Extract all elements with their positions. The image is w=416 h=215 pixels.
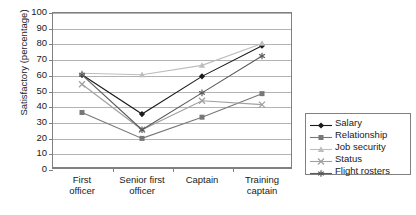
y-tick-label: 100 bbox=[21, 7, 47, 17]
data-point-square bbox=[140, 136, 145, 141]
legend-item-job-security[interactable]: Job security bbox=[309, 141, 407, 152]
y-tick-mark bbox=[49, 170, 53, 171]
legend-marker-square-icon bbox=[309, 129, 333, 140]
y-tick-label: 40 bbox=[21, 101, 47, 111]
legend-marker-cross-icon bbox=[309, 153, 333, 164]
data-point-triangle bbox=[259, 40, 265, 46]
legend-marker-asterisk-icon bbox=[309, 165, 333, 176]
data-point-square bbox=[200, 115, 205, 120]
legend-label: Salary bbox=[335, 117, 362, 128]
data-point-diamond bbox=[139, 111, 145, 117]
legend-label: Flight rosters bbox=[335, 165, 390, 176]
series-line bbox=[82, 84, 262, 130]
series-flight-rosters bbox=[79, 53, 265, 133]
legend-item-flight-rosters[interactable]: Flight rosters bbox=[309, 165, 407, 176]
x-tick-label-line: officer bbox=[105, 185, 179, 196]
y-tick-label: 90 bbox=[21, 23, 47, 33]
data-point-diamond bbox=[199, 73, 205, 79]
data-series-layer bbox=[52, 12, 292, 169]
series-salary bbox=[79, 43, 265, 117]
data-point-asterisk bbox=[199, 90, 205, 97]
y-tick-label: 0 bbox=[21, 164, 47, 174]
y-tick-label: 70 bbox=[21, 54, 47, 64]
data-point-square bbox=[80, 110, 85, 115]
data-point-asterisk bbox=[259, 53, 265, 60]
legend: SalaryRelationshipJob securityStatusFlig… bbox=[305, 113, 411, 175]
data-point-square bbox=[319, 135, 324, 140]
legend-label: Relationship bbox=[335, 129, 387, 140]
data-point-diamond bbox=[318, 122, 324, 128]
legend-marker-triangle-icon bbox=[309, 141, 333, 152]
legend-label: Status bbox=[335, 153, 362, 164]
legend-item-status[interactable]: Status bbox=[309, 153, 407, 164]
x-tick-label-line: captain bbox=[225, 185, 299, 196]
y-tick-label: 80 bbox=[21, 38, 47, 48]
y-tick-label: 20 bbox=[21, 133, 47, 143]
legend-item-salary[interactable]: Salary bbox=[309, 117, 407, 128]
data-point-cross bbox=[79, 81, 85, 87]
y-tick-label: 60 bbox=[21, 70, 47, 80]
y-tick-label: 50 bbox=[21, 86, 47, 96]
x-tick-label: Trainingcaptain bbox=[225, 174, 299, 196]
legend-label: Job security bbox=[335, 141, 386, 152]
series-status bbox=[79, 81, 265, 133]
legend-item-relationship[interactable]: Relationship bbox=[309, 129, 407, 140]
legend-marker-diamond-icon bbox=[309, 117, 333, 128]
series-line bbox=[82, 94, 262, 139]
data-point-square bbox=[260, 91, 265, 96]
y-tick-label: 10 bbox=[21, 148, 47, 158]
line-chart: Satisfactory (percentage) 10090807060504… bbox=[0, 0, 416, 215]
y-tick-label: 30 bbox=[21, 117, 47, 127]
x-tick-label-line: Training bbox=[225, 174, 299, 185]
